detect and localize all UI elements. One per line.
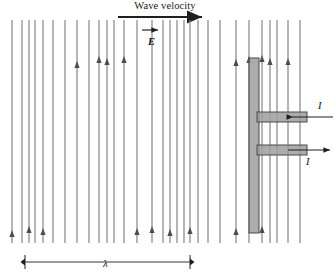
wave-antenna-diagram: Wave velocity E I I: [0, 0, 334, 278]
dipole-antenna: [249, 58, 307, 233]
current-label-upper: I: [318, 100, 322, 111]
field-line-arrowheads: [9, 55, 290, 237]
e-field-label: E: [148, 36, 155, 47]
diagram-canvas: [0, 0, 334, 278]
current-label-lower: I: [306, 156, 310, 167]
wavelength-label: λ: [103, 257, 108, 269]
